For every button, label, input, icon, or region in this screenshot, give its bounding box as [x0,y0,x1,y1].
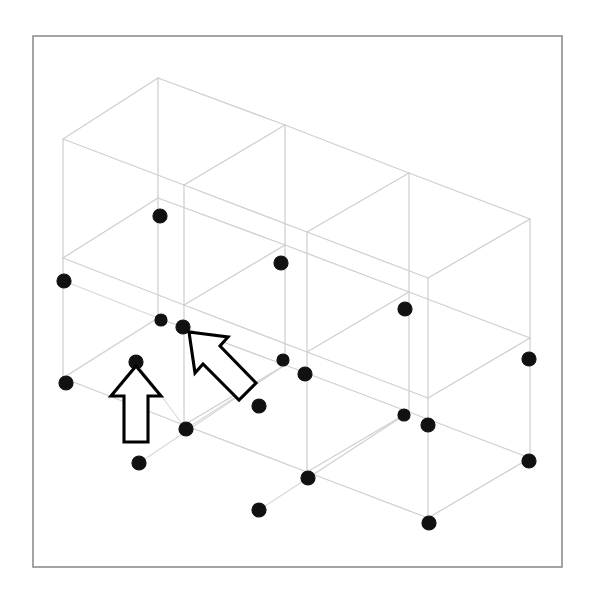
beam-depth-D1 [428,458,530,518]
node-marker-dot [132,456,146,470]
beam-front-2 [63,258,184,305]
beam-front-1 [184,425,307,472]
beam-back-3 [285,125,409,173]
diagonal-arrow [189,332,256,400]
node-marker-dot [398,302,412,316]
beam-front-1 [307,472,428,518]
beam-depth-A3 [63,78,158,139]
beam-front-3 [63,139,184,185]
column-drop-C1 [308,412,409,478]
beam-front-2 [307,352,428,398]
node-marker-dot [57,274,71,288]
node-marker-dot [155,314,167,326]
beam-depth-C1 [307,412,409,472]
beam-back-3 [158,78,285,125]
beam-depth-B3 [184,125,285,185]
figure-root: Isometric wireframe of a multi-storey bu… [0,0,603,602]
beam-front-3 [307,232,428,278]
node-marker-dot [252,503,266,517]
beam-depth-D2 [428,338,530,398]
figure-border [33,36,562,567]
node-marker-dot [522,454,536,468]
beam-depth-C3 [307,173,409,232]
beam-back-2 [158,198,285,245]
beam-depth-B2 [184,245,285,305]
node-marker-dot [277,354,289,366]
isometric-frame-diagram [0,0,603,602]
beam-depth-C2 [307,292,409,352]
beam-back-2 [409,292,530,338]
diagonal-arrow-shape [189,332,256,400]
vertical-arrow-shape [111,366,161,442]
node-marker-dot [422,516,436,530]
node-marker-dot [421,418,435,432]
node-marker-dot [179,422,193,436]
column-drop-A1 [63,318,158,378]
beam-back-3 [409,173,530,219]
vertical-arrow [111,366,161,442]
node-marker-dot [298,367,312,381]
node-marker-dot [59,376,73,390]
beam-back-2 [285,245,409,292]
node-marker-dot [274,256,288,270]
beam-front-3 [184,185,307,232]
node-marker-dot [301,471,315,485]
node-marker-dot [522,352,536,366]
node-marker-dot [252,399,266,413]
node-marker-dot [153,209,167,223]
beam-depth-A2 [63,198,158,258]
node-marker-dot [398,409,410,421]
wireframe-group [63,78,530,518]
column-drop-A1 [64,281,158,318]
beam-depth-D3 [428,219,530,278]
